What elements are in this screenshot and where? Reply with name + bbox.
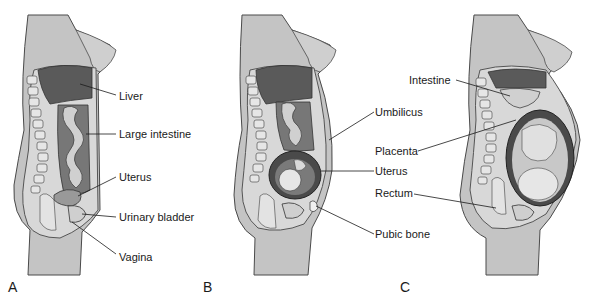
panel-letter-c: C bbox=[400, 279, 410, 295]
label-rectum: Rectum bbox=[375, 187, 413, 199]
label-intestine: Intestine bbox=[409, 74, 451, 86]
label-large-intestine: Large intestine bbox=[119, 128, 191, 140]
label-urinary-bladder: Urinary bladder bbox=[119, 211, 194, 223]
label-uterus: Uterus bbox=[119, 171, 151, 183]
label-vagina: Vagina bbox=[119, 251, 152, 263]
sagittal-section-early-pregnancy-illustration bbox=[200, 0, 400, 301]
sagittal-section-late-pregnancy-illustration bbox=[400, 0, 600, 301]
panel-letter-b: B bbox=[203, 279, 212, 295]
panel-c-figure: Intestine Placenta Rectum C bbox=[400, 0, 600, 301]
label-placenta: Placenta bbox=[375, 145, 418, 157]
sagittal-section-nonpregnant-illustration bbox=[0, 0, 200, 301]
panel-b-figure: Umbilicus Uterus Pubic bone B bbox=[200, 0, 400, 301]
panel-letter-a: A bbox=[8, 279, 17, 295]
panel-a-figure: Liver Large intestine Uterus Urinary bla… bbox=[0, 0, 200, 301]
label-liver: Liver bbox=[119, 90, 143, 102]
